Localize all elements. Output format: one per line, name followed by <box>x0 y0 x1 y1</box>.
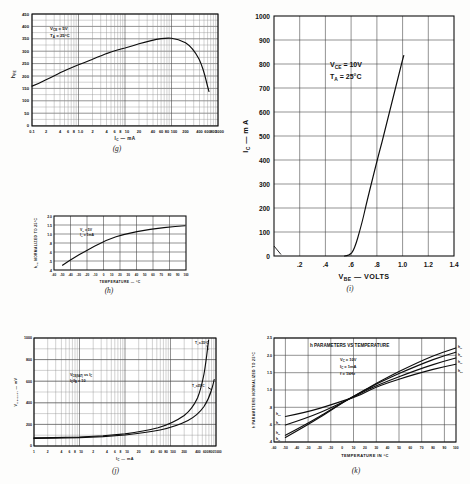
y-ticks-h: 2.0 1.5 1.0 .8 .6 .5 .4 <box>47 215 52 273</box>
svg-text:450: 450 <box>22 12 30 17</box>
svg-text:40: 40 <box>135 273 139 277</box>
svg-text:400: 400 <box>196 129 203 134</box>
svg-text:300: 300 <box>22 49 30 54</box>
svg-text:400: 400 <box>22 24 30 29</box>
svg-text:600: 600 <box>259 109 270 116</box>
svg-text:.8: .8 <box>49 242 52 246</box>
figure-i: 1000 900 800 700 600 500 400 300 200 100… <box>234 6 466 298</box>
svg-text:f = 1kHz: f = 1kHz <box>340 371 355 376</box>
x-ticks-j: 1 2 4 6 8 10 2 4 6 8 10 20 40 60 80 100 <box>33 450 222 454</box>
chart-j: 1000 800 600 400 200 0 1 2 4 6 8 10 2 4 … <box>8 330 223 468</box>
svg-text:200: 200 <box>181 450 187 454</box>
chart-i: 1000 900 800 700 600 500 400 300 200 100… <box>234 6 466 286</box>
svg-text:300: 300 <box>259 181 270 188</box>
svg-text:100: 100 <box>183 273 188 277</box>
svg-text:70: 70 <box>160 273 164 277</box>
x-ticks-g: 0.1 2 4 6 8 1.0 2 4 6 8 10 20 40 60 80 1… <box>29 129 224 134</box>
x-ticks-i: .2 .4 .6 .8 1.0 1.2 1.4 <box>297 261 459 268</box>
y-axis-title-i: IC — m A <box>241 119 251 152</box>
svg-text:-40: -40 <box>294 446 299 450</box>
svg-text:-60: -60 <box>52 273 57 277</box>
svg-text:80: 80 <box>168 273 172 277</box>
x-axis-title-h: TEMPERATURE — °C <box>99 280 140 284</box>
svg-text:6: 6 <box>114 450 116 454</box>
svg-text:200: 200 <box>26 423 32 427</box>
svg-text:60: 60 <box>151 273 155 277</box>
svg-text:2: 2 <box>92 450 94 454</box>
svg-text:60: 60 <box>159 129 163 134</box>
y-ticks-k: 2.5 2.0 1.5 1.0 .8 .6 .4 <box>267 336 272 444</box>
svg-text:6: 6 <box>68 450 70 454</box>
svg-text:0: 0 <box>27 123 30 128</box>
svg-text:-30: -30 <box>306 446 311 450</box>
annotation-k: VC = 10V IC = 1mA f = 1kHz <box>340 357 357 376</box>
svg-text:40: 40 <box>386 446 390 450</box>
x-ticks-k: -60 -50 -40 -30 -20 -10 0 10 20 30 40 50… <box>272 446 459 450</box>
svg-text:2.5: 2.5 <box>267 336 272 340</box>
figure-j: 1000 800 600 400 200 0 1 2 4 6 8 10 2 4 … <box>8 330 223 478</box>
svg-text:-50: -50 <box>60 273 65 277</box>
svg-text:8: 8 <box>120 450 122 454</box>
svg-text:hie: hie <box>458 345 463 350</box>
svg-text:400: 400 <box>26 401 32 405</box>
svg-text:2.0: 2.0 <box>267 354 272 358</box>
figure-g: 450 400 350 300 250 200 150 100 50 0 0.1… <box>6 6 228 158</box>
svg-text:2: 2 <box>91 129 94 134</box>
chart-title-k: h PARAMETERS VS TEMPERATURE <box>310 343 389 348</box>
svg-text:2: 2 <box>47 450 49 454</box>
svg-text:-30: -30 <box>77 273 82 277</box>
svg-text:1.0: 1.0 <box>267 388 272 392</box>
svg-text:800: 800 <box>259 61 270 68</box>
svg-text:4: 4 <box>60 450 62 454</box>
svg-text:800: 800 <box>26 358 32 362</box>
svg-text:350: 350 <box>22 36 30 41</box>
svg-text:10: 10 <box>110 273 114 277</box>
curve-labels-right-k: hie hfe hre hoe <box>458 345 464 374</box>
svg-text:10: 10 <box>352 446 356 450</box>
svg-text:6: 6 <box>67 129 70 134</box>
svg-text:1.5: 1.5 <box>47 224 52 228</box>
svg-text:0: 0 <box>266 253 270 260</box>
svg-text:90: 90 <box>176 273 180 277</box>
svg-text:20: 20 <box>137 129 141 134</box>
svg-text:.4: .4 <box>323 261 329 268</box>
svg-text:250: 250 <box>22 61 30 66</box>
svg-text:60: 60 <box>408 446 412 450</box>
svg-text:100: 100 <box>22 98 30 103</box>
svg-text:20: 20 <box>363 446 367 450</box>
figure-caption-j: (j) <box>8 466 223 475</box>
y-ticks-i: 1000 900 800 700 600 500 400 300 200 100… <box>255 13 270 260</box>
x-ticks-h: -60 -50 -40 -30 -20 -10 0 10 20 30 40 50… <box>52 273 189 277</box>
y-axis-title-g: hFE <box>11 70 17 78</box>
svg-text:30: 30 <box>127 273 131 277</box>
svg-text:1000: 1000 <box>24 336 32 340</box>
svg-text:.6: .6 <box>348 261 354 268</box>
svg-text:900: 900 <box>259 37 270 44</box>
svg-text:.2: .2 <box>297 261 303 268</box>
svg-text:0: 0 <box>30 444 32 448</box>
y-axis-title-h: hFE NORMALIZED TO 25°C <box>34 218 39 269</box>
svg-text:.6: .6 <box>49 251 52 255</box>
svg-text:hre: hre <box>458 360 463 365</box>
svg-text:hfe: hfe <box>458 353 463 358</box>
svg-text:60: 60 <box>158 450 162 454</box>
svg-text:30: 30 <box>374 446 378 450</box>
svg-text:hoe: hoe <box>458 369 464 374</box>
figure-k: 2.5 2.0 1.5 1.0 .8 .6 .4 -60 -50 -40 -30… <box>244 330 468 478</box>
svg-text:40: 40 <box>151 450 155 454</box>
svg-text:100: 100 <box>453 446 459 450</box>
svg-text:70: 70 <box>420 446 424 450</box>
svg-text:1: 1 <box>33 450 35 454</box>
svg-text:-60: -60 <box>272 446 277 450</box>
x-axis-title-g: IC — mA <box>115 136 136 142</box>
svg-text:.4: .4 <box>49 269 52 273</box>
svg-text:90: 90 <box>443 446 447 450</box>
svg-text:1.0: 1.0 <box>47 233 52 237</box>
svg-text:100: 100 <box>259 229 270 236</box>
svg-text:-20: -20 <box>317 446 322 450</box>
svg-text:8: 8 <box>74 450 76 454</box>
svg-text:100: 100 <box>170 450 176 454</box>
svg-text:4: 4 <box>105 129 108 134</box>
y-axis-title-j: VCE(SAT) — mV <box>14 377 19 406</box>
svg-text:-20: -20 <box>85 273 90 277</box>
